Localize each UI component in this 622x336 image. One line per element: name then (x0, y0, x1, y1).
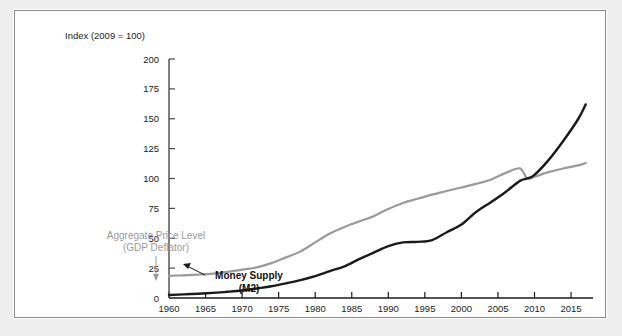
y-axis-tick-label: 200 (143, 54, 159, 65)
y-axis-tick-labels: 0255075100125150175200 (143, 54, 159, 304)
x-axis-tick-label: 2010 (524, 303, 545, 314)
aggregate-price-level-label-line1: Aggregate Price Level (107, 230, 205, 241)
y-axis-tick-label: 125 (143, 143, 159, 154)
money-supply-label-line1: Money Supply (215, 270, 283, 281)
x-axis-tick-label: 1985 (341, 303, 362, 314)
line-chart: Index (2009 = 100) 025507510012515017520… (15, 11, 607, 319)
money-supply-label-line2: (M2) (239, 283, 260, 294)
x-axis-tick-label: 1980 (305, 303, 326, 314)
x-axis-tick-label: 1995 (414, 303, 435, 314)
money-supply-line (169, 104, 586, 295)
y-axis-tick-label: 0 (154, 293, 159, 304)
figure-panel: Index (2009 = 100) 025507510012515017520… (14, 10, 606, 318)
aggregate-price-level-label-line2: (GDP Deflator) (123, 242, 189, 253)
x-axis-tick-label: 1960 (158, 303, 179, 314)
y-axis-tick-label: 75 (148, 203, 159, 214)
x-axis-tick-label: 1990 (378, 303, 399, 314)
chart-title: Index (2009 = 100) (65, 30, 145, 41)
x-axis-tick-label: 1965 (195, 303, 216, 314)
x-axis-tick-label: 1970 (232, 303, 253, 314)
money-supply-annotation: Money Supply (M2) (183, 263, 283, 294)
aggregate-price-level-arrow-icon (153, 274, 159, 281)
y-axis-tick-label: 25 (148, 263, 159, 274)
money-supply-arrow-icon (183, 263, 191, 269)
y-axis-tick-label: 150 (143, 113, 159, 124)
x-axis-tick-labels: 1960196519701975198019851990199520002005… (158, 303, 581, 314)
aggregate-price-level-annotation: Aggregate Price Level (GDP Deflator) (107, 230, 205, 281)
chart-title-group: Index (2009 = 100) (65, 30, 145, 41)
x-axis-tick-label: 2000 (451, 303, 472, 314)
x-axis-tick-label: 2015 (560, 303, 581, 314)
x-axis-tick-marks (169, 292, 571, 298)
x-axis-tick-label: 1975 (268, 303, 289, 314)
chart-area: Index (2009 = 100) 025507510012515017520… (15, 11, 607, 319)
x-axis-tick-label: 2005 (487, 303, 508, 314)
y-axis-tick-label: 175 (143, 83, 159, 94)
y-axis-tick-label: 100 (143, 173, 159, 184)
